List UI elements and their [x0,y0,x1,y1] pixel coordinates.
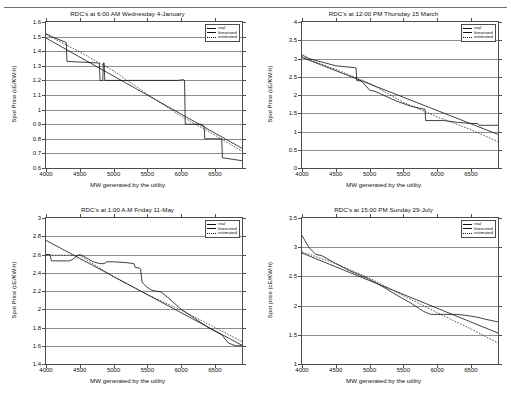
page-top-rule [4,7,507,8]
chart-panel-top-right: RDC's at 12:00 PM Thursday 15 March 00.5… [256,10,511,206]
y-axis-tick-label: 1.5 [33,34,41,40]
y-axis-tick-label: 1.5 [289,110,297,116]
y-axis-tick [498,306,502,307]
series-layer [46,218,242,364]
y-axis-tick-label: 3 [294,56,297,62]
y-axis-tick [242,273,246,274]
y-axis-tick-label: 1.2 [33,77,41,83]
legend-item-label: estimated [474,231,493,236]
series-line-real [302,236,498,322]
legend-swatch-icon [463,32,472,33]
series-line-real [302,55,498,125]
plot-area: 11.522.533.5400045005000550060006500real… [301,217,499,365]
x-axis-tick-label: 6000 [430,171,443,177]
y-axis-tick-label: 1.6 [33,343,41,349]
y-axis-tick-label: 2 [294,303,297,309]
y-axis-tick-label: 2.6 [33,252,41,258]
y-axis-tick [242,255,246,256]
legend-swatch-icon [207,37,216,38]
x-axis-tick-label: 6000 [174,171,187,177]
y-axis-tick [242,291,246,292]
y-axis-tick [242,80,246,81]
chart-panel-top-left: RDC's at 6:00 AM Wednesday 4-January 0.6… [0,10,255,206]
y-axis-tick [242,364,246,365]
y-axis-tick [498,218,502,219]
legend-swatch-icon [207,233,216,234]
y-axis-tick-label: 1.4 [33,48,41,54]
x-axis-tick-label: 6500 [208,171,221,177]
x-axis-tick-label: 4000 [39,171,52,177]
y-axis-tick-label: 0.7 [33,150,41,156]
x-axis-tick-label: 5500 [141,171,154,177]
y-axis-tick-label: 1.5 [289,332,297,338]
y-axis-tick-label: 2.4 [33,270,41,276]
chart-title: RDC's at 12:00 PM Thursday 15 March [256,10,511,17]
y-axis-tick-label: 2.8 [33,233,41,239]
x-axis-tick-label: 5000 [107,171,120,177]
y-axis-tick-label: 2.2 [33,288,41,294]
y-axis-tick-label: 3.5 [289,37,297,43]
plot-area: 1.41.61.822.22.42.62.8340004500500055006… [45,217,243,365]
chart-legend: reallinearizedestimated [461,24,496,42]
y-axis-tick-label: 4 [294,19,297,25]
legend-swatch-icon [463,228,472,229]
y-axis-tick-label: 1 [38,107,41,113]
y-axis-title: Spot Price (cE/KW-h) [11,66,17,123]
chart-legend: reallinearizedestimated [205,24,240,42]
y-axis-tick [498,150,502,151]
x-axis-tick-label: 5000 [107,367,120,373]
x-axis-tick-label: 6500 [208,367,221,373]
x-axis-tick-label: 6500 [464,367,477,373]
legend-item-estimated: estimated [207,231,237,236]
y-axis-tick [498,168,502,169]
series-layer [46,22,242,168]
x-axis-tick-label: 4000 [295,171,308,177]
legend-swatch-icon [207,224,216,225]
y-axis-tick [242,51,246,52]
y-axis-tick-label: 0.5 [289,147,297,153]
x-axis-tick-label: 4500 [329,171,342,177]
y-axis-tick [242,328,246,329]
x-axis-tick-label: 5500 [141,367,154,373]
x-axis-title: MW generated by the utility [0,377,255,384]
y-axis-tick [242,95,246,96]
y-axis-tick-label: 3.5 [289,215,297,221]
plot-area: 0.60.70.80.911.11.21.31.41.51.6400045005… [45,21,243,169]
y-axis-tick [242,66,246,67]
x-axis-title: MW generated by the utility [256,181,511,188]
y-axis-tick-label: 2 [294,92,297,98]
series-line-estimated [46,255,242,342]
series-line-real [46,34,242,161]
chart-legend: reallinearizedestimated [205,220,240,238]
y-axis-tick-label: 1 [294,129,297,135]
x-axis-tick-label: 4000 [295,367,308,373]
y-axis-tick [498,113,502,114]
legend-swatch-icon [463,37,472,38]
x-axis-tick-label: 4500 [329,367,342,373]
y-axis-tick-label: 2.5 [289,74,297,80]
y-axis-tick [242,124,246,125]
y-axis-title: Spot Price (cE/KW-h) [267,66,273,123]
y-axis-tick-label: 2 [38,306,41,312]
legend-item-estimated: estimated [207,35,237,40]
x-axis-tick-label: 6500 [464,171,477,177]
x-axis-tick-label: 4500 [73,367,86,373]
y-axis-tick [242,309,246,310]
y-axis-tick-label: 3 [294,244,297,250]
y-axis-title: Spot Price (cE/KW-h) [11,262,17,319]
legend-item-label: estimated [218,231,237,236]
chart-title: RDC's at 15:00 PM Sunday 29-July [256,206,511,213]
x-axis-tick-label: 5500 [397,367,410,373]
y-axis-tick [242,110,246,111]
y-axis-tick-label: 1.6 [33,19,41,25]
x-axis-tick-label: 5000 [363,171,376,177]
y-axis-tick [498,40,502,41]
legend-swatch-icon [463,28,472,29]
figure-page: RDC's at 6:00 AM Wednesday 4-January 0.6… [0,0,511,408]
x-axis-tick-label: 6000 [430,367,443,373]
chart-legend: reallinearizedestimated [461,220,496,238]
y-axis-tick-label: 2.5 [289,273,297,279]
y-axis-tick [242,236,246,237]
x-axis-tick-label: 4500 [73,171,86,177]
y-axis-tick [498,95,502,96]
